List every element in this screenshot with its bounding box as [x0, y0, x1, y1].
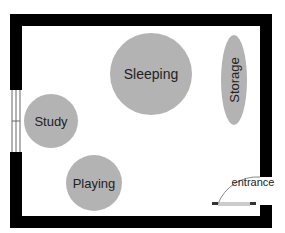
- zone-sleeping[interactable]: Sleeping: [110, 33, 192, 115]
- wall-bottom: [10, 216, 272, 228]
- zone-storage[interactable]: Storage: [221, 35, 247, 125]
- zone-playing[interactable]: Playing: [66, 155, 122, 211]
- zone-sleeping-label: Sleeping: [124, 66, 179, 82]
- wall-left-lower: [10, 152, 22, 228]
- entrance-door[interactable]: entrance: [212, 176, 274, 205]
- floor-plan: entrance Sleeping Storage Study Playing: [0, 0, 285, 233]
- zone-study-label: Study: [34, 114, 68, 129]
- wall-left-upper: [10, 14, 22, 90]
- zone-storage-label: Storage: [227, 57, 242, 103]
- zone-playing-label: Playing: [73, 176, 116, 191]
- wall-right-upper: [260, 14, 272, 177]
- zone-study[interactable]: Study: [24, 94, 78, 148]
- wall-top: [10, 14, 272, 26]
- entrance-label: entrance: [232, 176, 275, 188]
- window: [12, 90, 20, 152]
